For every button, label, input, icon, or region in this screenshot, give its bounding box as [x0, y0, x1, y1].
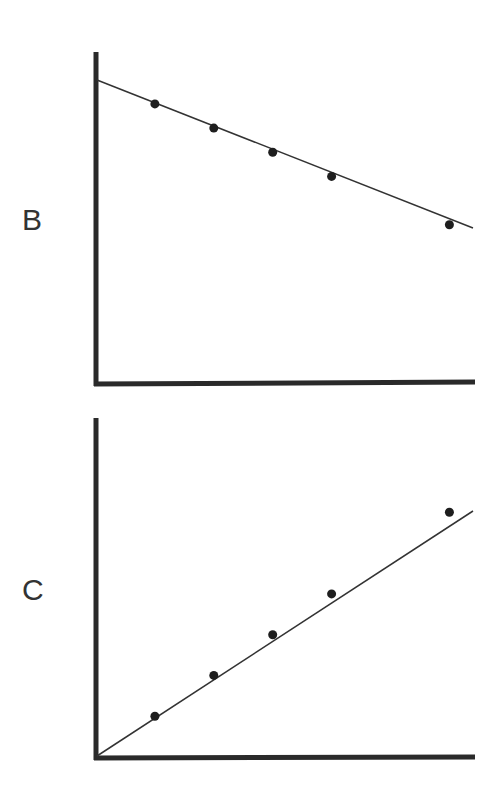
data-point-marker [268, 630, 277, 639]
data-point-marker [150, 712, 159, 721]
data-point-marker [327, 589, 336, 598]
data-point-marker [445, 508, 454, 517]
chart-b-x-axis [94, 382, 475, 384]
data-point-marker [327, 172, 336, 181]
chart-c-x-axis [94, 757, 475, 758]
chart-b [94, 52, 475, 386]
data-point-marker [445, 220, 454, 229]
data-point-marker [209, 671, 218, 680]
chart-c-points [150, 508, 454, 721]
chart-c [94, 418, 475, 760]
data-point-marker [150, 99, 159, 108]
charts-canvas [0, 0, 497, 804]
data-point-marker [268, 148, 277, 157]
data-point-marker [209, 124, 218, 133]
